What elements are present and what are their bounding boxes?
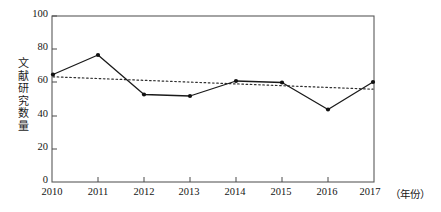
data-point-2016 bbox=[326, 107, 330, 111]
data-point-2015 bbox=[280, 80, 284, 84]
data-point-2010 bbox=[51, 72, 55, 76]
data-point-markers bbox=[51, 53, 375, 112]
data-point-2011 bbox=[96, 53, 100, 57]
data-point-2012 bbox=[142, 92, 146, 96]
plot-frame bbox=[52, 16, 374, 182]
data-line bbox=[53, 55, 373, 110]
chart-plot-svg bbox=[0, 0, 441, 212]
y-axis-ticks bbox=[52, 16, 57, 149]
chart-figure: 文 献 研 究 数 量 100 80 60 40 20 0 2010 2011 … bbox=[0, 0, 441, 212]
trendline bbox=[53, 77, 373, 89]
data-point-2014 bbox=[234, 79, 238, 83]
data-point-2017 bbox=[371, 80, 375, 84]
x-axis-ticks bbox=[98, 177, 328, 182]
data-point-2013 bbox=[188, 94, 192, 98]
